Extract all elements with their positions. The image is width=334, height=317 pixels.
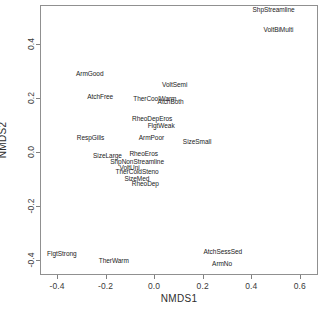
y-axis-tick-label: 0.4 (26, 33, 36, 55)
x-axis-tick-label: -0.2 (98, 281, 113, 291)
y-axis-tick (36, 260, 40, 261)
y-axis-tick-label: -0.2 (26, 195, 36, 217)
x-axis-tick-label: 0.4 (245, 281, 257, 291)
data-point-label: TherWarm (99, 258, 129, 265)
data-point-label: FlgtStrong (47, 251, 77, 258)
x-axis-tick (154, 275, 155, 279)
data-point-label: RespGills (77, 135, 104, 142)
y-axis-title: NMDS2 (0, 120, 8, 160)
y-axis-tick-label: -0.4 (26, 249, 36, 271)
x-axis-tick (106, 275, 107, 279)
data-point-label: ArmGood (76, 71, 103, 78)
x-axis-tick-label: 0.2 (197, 281, 209, 291)
data-point-label: AtchSessSed (204, 249, 242, 256)
y-axis-tick-label: 0.0 (26, 141, 36, 163)
data-point-label: SizeSmall (183, 139, 211, 146)
x-axis-title: NMDS1 (40, 293, 318, 304)
y-axis-tick-label: 0.2 (26, 87, 36, 109)
data-point-label: ArmPoor (139, 135, 164, 142)
x-axis-tick (251, 275, 252, 279)
y-axis-tick (36, 152, 40, 153)
x-axis-tick (203, 275, 204, 279)
data-point-label: RheoEros (129, 151, 158, 158)
data-point-label: AtchBoth (158, 99, 184, 106)
data-point-label: AtchFree (87, 93, 113, 100)
data-point-label: FlgtWeak (148, 122, 175, 129)
data-point-label: VoltBiMulti (264, 27, 294, 34)
data-point-label: RheoDep (132, 181, 159, 188)
x-axis-tick-label: 0.6 (294, 281, 306, 291)
data-point-label: ArmNo (212, 261, 232, 268)
nmds-ordination-plot: -0.4-0.20.00.20.40.6 0.40.20.0-0.2-0.4 N… (0, 0, 334, 317)
x-axis-tick (57, 275, 58, 279)
y-axis-tick (36, 98, 40, 99)
data-point-label: ShpStreamline (253, 7, 295, 14)
x-axis-tick-label: -0.4 (49, 281, 64, 291)
data-point-label: VoltSemi (162, 82, 187, 89)
x-axis-tick (300, 275, 301, 279)
y-axis-tick (36, 44, 40, 45)
x-axis-tick-label: 0.0 (148, 281, 160, 291)
y-axis-tick (36, 206, 40, 207)
